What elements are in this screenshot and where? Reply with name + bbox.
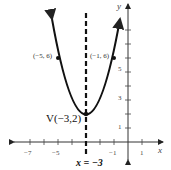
y-axis-label: y	[117, 2, 121, 11]
y-tick-label: 3	[118, 95, 122, 102]
point-left-label: (−5, 6)	[33, 53, 52, 60]
x-tick-label: −1	[109, 150, 116, 157]
x-tick-label: −7	[24, 150, 31, 157]
axis-of-symmetry-label: x = −3	[76, 158, 103, 168]
x-tick-label: 1	[140, 150, 144, 157]
y-tick-label: 1	[118, 124, 122, 131]
parabola-graph	[0, 0, 171, 170]
y-tick-label: 5	[118, 66, 122, 73]
x-axis-label: x	[158, 146, 162, 155]
point-right	[112, 56, 116, 60]
vertex-label: V(−3,2)	[46, 113, 81, 124]
x-tick-label: −5	[52, 150, 59, 157]
point-right-label: (−1, 6)	[90, 53, 109, 60]
point-left	[56, 56, 60, 60]
vertex-point	[84, 112, 88, 116]
